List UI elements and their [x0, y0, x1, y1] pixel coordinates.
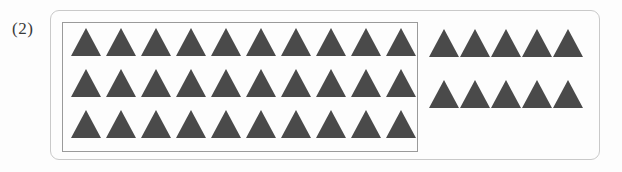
- ungrouped-remainder: [429, 22, 589, 152]
- triangle-icon: [211, 110, 241, 138]
- problem-number-label: (2): [12, 20, 33, 37]
- grouped-triangle-row: [71, 110, 416, 138]
- triangle-icon: [491, 80, 521, 108]
- triangle-icon: [351, 69, 381, 97]
- triangle-icon: [316, 69, 346, 97]
- triangle-icon: [491, 29, 521, 57]
- triangle-icon: [386, 28, 416, 56]
- triangle-icon: [211, 69, 241, 97]
- triangle-icon: [460, 80, 490, 108]
- triangle-icon: [176, 69, 206, 97]
- triangle-icon: [106, 69, 136, 97]
- worksheet-canvas: (2): [0, 0, 622, 172]
- triangle-icon: [246, 69, 276, 97]
- triangle-icon: [281, 28, 311, 56]
- triangle-icon: [351, 110, 381, 138]
- triangle-icon: [386, 110, 416, 138]
- triangle-icon: [71, 28, 101, 56]
- triangle-icon: [429, 80, 459, 108]
- triangle-icon: [71, 69, 101, 97]
- triangle-icon: [386, 69, 416, 97]
- triangle-icon: [141, 69, 171, 97]
- triangle-icon: [176, 28, 206, 56]
- triangle-icon: [351, 28, 381, 56]
- triangle-icon: [71, 110, 101, 138]
- triangle-icon: [246, 110, 276, 138]
- triangle-icon: [522, 80, 552, 108]
- triangle-icon: [176, 110, 206, 138]
- grouped-triangle-row: [71, 28, 416, 56]
- triangle-icon: [553, 80, 583, 108]
- triangle-icon: [211, 28, 241, 56]
- outer-rounded-panel: [50, 10, 600, 160]
- triangle-icon: [316, 28, 346, 56]
- triangle-icon: [316, 110, 346, 138]
- triangle-icon: [246, 28, 276, 56]
- loose-triangle-row: [429, 80, 583, 108]
- grouped-triangle-row: [71, 69, 416, 97]
- triangle-icon: [106, 110, 136, 138]
- triangle-icon: [553, 29, 583, 57]
- triangle-icon: [429, 29, 459, 57]
- triangle-icon: [141, 28, 171, 56]
- triangle-icon: [460, 29, 490, 57]
- triangle-icon: [522, 29, 552, 57]
- inner-group-box: [62, 22, 418, 152]
- loose-triangle-row: [429, 29, 583, 57]
- triangle-icon: [281, 110, 311, 138]
- triangle-icon: [281, 69, 311, 97]
- triangle-icon: [106, 28, 136, 56]
- triangle-icon: [141, 110, 171, 138]
